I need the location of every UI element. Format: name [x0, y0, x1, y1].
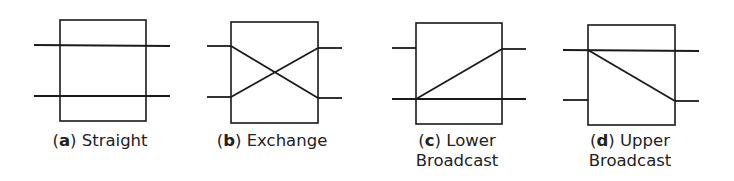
caption-label: Lower [446, 131, 495, 150]
connection-line [588, 50, 675, 101]
caption-letter: b [223, 131, 235, 150]
caption-line-1: (a) Straight [30, 131, 170, 151]
connection-line [563, 50, 699, 51]
caption-d: (d) UpperBroadcast [560, 131, 700, 171]
caption-line-2: Broadcast [387, 151, 527, 171]
caption-letter: d [596, 131, 608, 150]
switch-box-exchange [207, 22, 342, 123]
caption-line-1: (b) Exchange [202, 131, 342, 151]
switch-box-straight [34, 20, 170, 121]
caption-line-1: (d) Upper [560, 131, 700, 151]
caption-line-2: Broadcast [560, 151, 700, 171]
caption-label: Exchange [247, 131, 328, 150]
connection-line [416, 49, 502, 99]
caption-line-1: (c) Lower [387, 131, 527, 151]
caption-letter: c [425, 131, 435, 150]
switch-box-upper-broadcast [563, 25, 699, 125]
switch-box-lower-broadcast [392, 23, 526, 124]
caption-label: Upper [620, 131, 670, 150]
caption-a: (a) Straight [30, 131, 170, 151]
switch-box-rect [60, 20, 146, 121]
caption-letter: a [59, 131, 70, 150]
caption-b: (b) Exchange [202, 131, 342, 151]
connection-line [34, 45, 170, 46]
caption-c: (c) LowerBroadcast [387, 131, 527, 171]
caption-label: Straight [82, 131, 148, 150]
